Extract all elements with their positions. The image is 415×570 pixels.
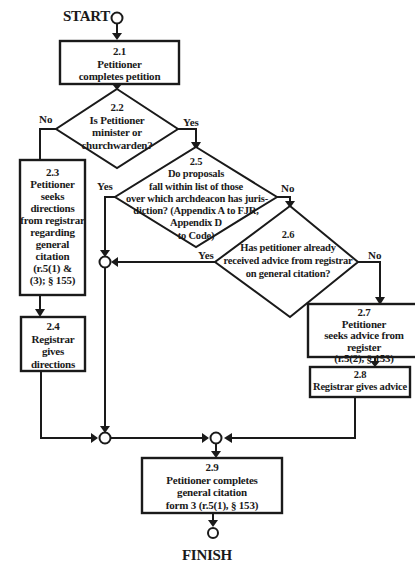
junction-node: [100, 257, 111, 268]
node-id: 2.7: [308, 307, 415, 319]
node-text: Has petitioner already: [218, 241, 358, 254]
node-id: 2.4: [21, 320, 85, 333]
node-text: Petitioner completes: [142, 474, 282, 487]
node-id: 2.9: [142, 461, 282, 474]
node-text: over which archdeacon has juris-: [126, 193, 266, 205]
connector-2-8-merge: [227, 397, 355, 438]
node-text: (r.5(1) &: [20, 262, 85, 274]
node-id: 2.6: [218, 228, 358, 241]
node-2-1: 2.1 Petitioner completes petition: [60, 45, 179, 83]
node-2-6: 2.6 Has petitioner already received advi…: [218, 228, 358, 280]
node-id: 2.1: [60, 45, 179, 58]
node-text: Do proposals: [126, 168, 266, 180]
connector-2-6-no: [358, 262, 380, 302]
node-2-2: 2.2 Is Petitioner minister or churchward…: [67, 101, 167, 151]
node-id: 2.8: [310, 369, 410, 381]
node-2-4: 2.4 Registrar gives directions: [21, 320, 85, 370]
node-text: Registrar gives advice: [310, 381, 410, 393]
edge-label-2-5-no: No: [281, 182, 294, 194]
finish-label: FINISH: [182, 547, 232, 564]
arrowhead-icon: [91, 433, 98, 443]
node-text: (r.5(2), § 153): [308, 353, 415, 365]
node-text: fall within list of those: [126, 181, 266, 193]
node-text: completes petition: [60, 70, 179, 83]
node-id: 2.2: [67, 101, 167, 114]
junction-node: [100, 433, 111, 444]
node-text: Registrar: [21, 333, 85, 346]
edge-label-2-2-no: No: [39, 113, 52, 125]
arrowhead-icon: [208, 520, 218, 527]
node-2-7: 2.7 Petitioner seeks advice from registe…: [308, 307, 415, 365]
node-text: directions: [21, 358, 85, 371]
node-id: 2.5: [126, 156, 266, 168]
node-text: gives: [21, 345, 85, 358]
node-text: general: [20, 238, 85, 250]
node-text: on general citation?: [218, 267, 358, 280]
node-text: diction? (Appendix A to FJR,: [126, 205, 266, 217]
edge-label-2-6-no: No: [368, 249, 381, 261]
node-text: Petitioner: [20, 178, 85, 190]
node-id: 2.3: [20, 166, 85, 178]
node-2-9: 2.9 Petitioner completes general citatio…: [142, 461, 282, 511]
arrowhead-icon: [35, 309, 45, 317]
edge-label-2-6-yes: Yes: [198, 249, 214, 261]
finish-terminal: [208, 528, 218, 538]
node-text: Petitioner: [60, 58, 179, 71]
node-text: seeks advice from: [308, 330, 415, 342]
start-label: START: [63, 8, 110, 25]
node-text: seeks: [20, 190, 85, 202]
arrowhead-icon: [202, 433, 209, 443]
node-text: churchwarden?: [67, 139, 167, 152]
node-text: Is Petitioner: [67, 114, 167, 127]
node-text: general citation: [142, 486, 282, 499]
node-text: (3); § 155): [20, 274, 85, 286]
junction-node: [211, 433, 222, 444]
node-text: form 3 (r.5(1), § 153): [142, 499, 282, 512]
arrowhead-icon: [112, 33, 122, 40]
node-text: directions: [20, 202, 85, 214]
edge-label-2-2-yes: Yes: [183, 116, 199, 128]
node-text: minister or: [67, 126, 167, 139]
arrowhead-icon: [111, 257, 118, 267]
arrowhead-icon: [224, 433, 232, 443]
connector-2-4-merge: [41, 371, 96, 438]
node-2-8: 2.8 Registrar gives advice: [310, 369, 410, 393]
edge-label-2-5-yes: Yes: [97, 180, 113, 192]
connector-2-5-yes: [105, 197, 115, 255]
node-text: from registrar: [20, 214, 85, 226]
node-2-3: 2.3 Petitioner seeks directions from reg…: [20, 166, 85, 286]
node-text: regarding: [20, 226, 85, 238]
node-text: received advice from registrar: [218, 254, 358, 267]
start-terminal: [112, 13, 123, 24]
node-text: citation: [20, 250, 85, 262]
